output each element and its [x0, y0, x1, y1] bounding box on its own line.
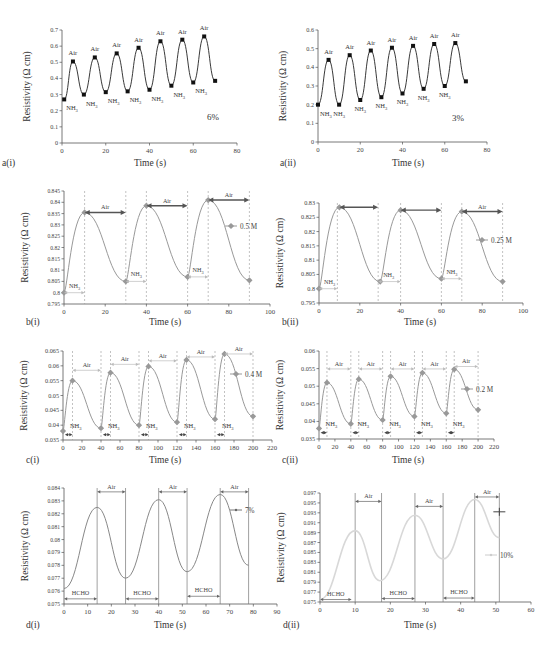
- double-arrow: [187, 595, 220, 598]
- x-tick-label: 200: [473, 443, 484, 450]
- y-tick-label: 0.825: [301, 213, 315, 220]
- data-point: [387, 373, 393, 379]
- y-tick-label: 0.076: [47, 588, 60, 594]
- y-tick-label: 0.075: [47, 601, 60, 607]
- panel-label: b(ii): [282, 317, 298, 328]
- x-tick-label: 160: [210, 444, 221, 451]
- x-axis-title: Time (s): [392, 455, 424, 466]
- legend-label: 10%: [500, 552, 513, 560]
- x-tick-label: 10: [84, 608, 91, 615]
- air-label: Air: [451, 31, 461, 38]
- x-axis-title: Time (s): [392, 158, 424, 169]
- data-point: [422, 87, 426, 91]
- air-label: Air: [101, 203, 109, 210]
- data-point: [327, 58, 331, 62]
- air-label: Air: [163, 197, 171, 204]
- panel-label: b(i): [26, 317, 40, 328]
- x-tick-label: 100: [153, 444, 164, 451]
- nh3-label: NH3: [421, 420, 433, 429]
- air-label: Air: [169, 483, 177, 490]
- x-tick-label: 0: [62, 608, 66, 615]
- x-tick-label: 20: [356, 307, 363, 314]
- x-tick-label: 0: [316, 146, 320, 153]
- double-arrow: [187, 355, 216, 358]
- air-label: Air: [90, 45, 100, 52]
- air-label: Air: [69, 49, 79, 56]
- x-tick-label: 80: [484, 146, 491, 153]
- nh3-label: NH3: [108, 422, 120, 431]
- nh3-label: NH3: [108, 97, 120, 106]
- data-point: [180, 38, 184, 42]
- x-tick-label: 40: [399, 146, 406, 153]
- x-tick-label: 0: [317, 307, 321, 314]
- axes: 0.7950.80.8050.810.8150.820.8250.8302040…: [301, 199, 529, 314]
- chart-d-ii: 0.0750.0770.0790.0810.0830.0850.0870.089…: [276, 488, 535, 631]
- air-label: Air: [230, 483, 238, 490]
- y-tick-label: 0.065: [45, 347, 59, 354]
- panel-label: c(ii): [282, 455, 298, 466]
- double-arrow: [462, 209, 503, 214]
- nh3-label: NH3: [333, 110, 345, 119]
- nh3-label: NH3: [195, 87, 207, 96]
- nh3-label: NH3: [446, 268, 457, 277]
- air-label: Air: [178, 28, 188, 35]
- data-point: [379, 95, 383, 99]
- y-tick-label: 0.083: [47, 498, 60, 504]
- x-tick-label: 20: [332, 443, 339, 450]
- x-tick-label: 60: [528, 606, 535, 613]
- chart-c-ii: 0.0350.040.0450.050.0550.060204060801001…: [275, 347, 500, 466]
- x-tick-label: 40: [155, 608, 162, 615]
- air-label: Air: [83, 361, 91, 368]
- data-point: [432, 42, 436, 46]
- x-tick-label: 40: [457, 606, 464, 613]
- x-tick-label: 40: [98, 444, 105, 451]
- double-arrow: [391, 367, 415, 370]
- y-tick-label: 0.035: [45, 436, 59, 443]
- air-label: Air: [156, 29, 166, 36]
- x-tick-label: 0: [61, 444, 65, 451]
- double-arrow: [73, 369, 102, 372]
- legend: 0.5 M: [225, 223, 258, 231]
- y-tick-label: 0.815: [47, 256, 60, 262]
- data-point: [443, 410, 449, 416]
- x-axis-title: Time (s): [149, 455, 181, 466]
- y-axis-title: Resistivity (Ω cm): [20, 212, 31, 282]
- x-tick-label: 0: [317, 443, 321, 450]
- nh3-label: NH3: [193, 266, 204, 275]
- nh3-label: NH3: [397, 98, 409, 107]
- nh3-label: NH3: [418, 94, 430, 103]
- nh3-label: NH3: [222, 422, 234, 431]
- data-point: [93, 55, 97, 59]
- nh3-label: NH3: [389, 420, 401, 429]
- x-tick-label: 180: [457, 443, 468, 450]
- nh3-label: NH3: [173, 91, 185, 100]
- y-tick-label: 0.82: [50, 245, 60, 251]
- double-arrow: [382, 597, 415, 600]
- y-tick-label: 0.795: [47, 301, 60, 307]
- legend-label: 0.25 M: [491, 237, 512, 245]
- double-arrow: [141, 433, 149, 436]
- y-tick-label: 0.835: [47, 211, 60, 217]
- x-tick-label: 50: [492, 606, 499, 613]
- y-tick-label: 0.06: [304, 347, 315, 354]
- air-label: Air: [430, 360, 438, 367]
- double-arrow: [85, 210, 126, 215]
- data-point: [246, 277, 252, 283]
- y-tick-label: 0.079: [303, 579, 316, 585]
- x-tick-label: 80: [479, 307, 486, 314]
- double-arrow: [111, 363, 140, 366]
- hcho-label: HCHO: [450, 588, 468, 595]
- x-axis-title: Time (s): [149, 317, 181, 328]
- double-arrow: [359, 367, 383, 370]
- x-tick-label: 30: [132, 608, 139, 615]
- air-label: Air: [367, 360, 375, 367]
- panel-label: d(ii): [283, 620, 299, 631]
- double-arrow: [327, 367, 351, 370]
- data-point: [475, 407, 481, 413]
- legend-label: 7%: [245, 507, 255, 515]
- y-tick-label: 0.095: [303, 500, 316, 506]
- y-tick-label: 0.795: [301, 299, 315, 306]
- chart-a-ii: 00.10.20.30.40.50.6020406080Resistivity …: [278, 26, 491, 169]
- air-label: Air: [345, 43, 355, 50]
- data-point: [443, 84, 447, 88]
